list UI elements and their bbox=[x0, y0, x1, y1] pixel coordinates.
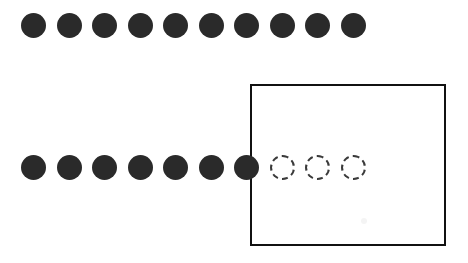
dot-filled-top-row-7 bbox=[234, 13, 259, 38]
dot-filled-bottom-row-3 bbox=[92, 155, 117, 180]
dot-filled-top-row-9 bbox=[305, 13, 330, 38]
dot-filled-bottom-row-4 bbox=[128, 155, 153, 180]
dot-filled-top-row-4 bbox=[128, 13, 153, 38]
dot-filled-top-row-8 bbox=[270, 13, 295, 38]
dot-filled-bottom-row-2 bbox=[57, 155, 82, 180]
scan-smudge bbox=[361, 218, 367, 224]
dot-filled-bottom-row-6 bbox=[199, 155, 224, 180]
dot-filled-top-row-10 bbox=[341, 13, 366, 38]
dot-filled-top-row-5 bbox=[163, 13, 188, 38]
dot-dashed-bottom-row-8 bbox=[270, 155, 295, 180]
dot-filled-top-row-3 bbox=[92, 13, 117, 38]
dot-filled-top-row-2 bbox=[57, 13, 82, 38]
dot-dashed-bottom-row-9 bbox=[305, 155, 330, 180]
dot-dashed-bottom-row-10 bbox=[341, 155, 366, 180]
dot-filled-bottom-row-5 bbox=[163, 155, 188, 180]
dot-filled-bottom-row-1 bbox=[21, 155, 46, 180]
diagram-canvas bbox=[0, 0, 468, 263]
dot-filled-bottom-row-7 bbox=[234, 155, 259, 180]
dot-filled-top-row-1 bbox=[21, 13, 46, 38]
dot-filled-top-row-6 bbox=[199, 13, 224, 38]
